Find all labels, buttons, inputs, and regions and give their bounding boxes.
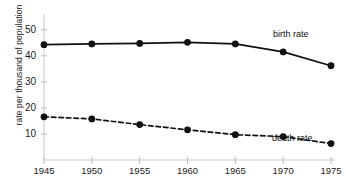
data-point-marker (280, 49, 287, 56)
series-label-birth-rate: birth rate (273, 29, 309, 39)
data-point-marker (328, 62, 335, 69)
data-point-marker (328, 140, 335, 147)
data-point-marker (184, 126, 191, 133)
data-point-marker (88, 116, 95, 123)
data-point-marker (41, 41, 48, 48)
data-point-marker (184, 39, 191, 46)
data-point-marker (232, 131, 239, 138)
data-point-marker (232, 41, 239, 48)
series-label-death-rate: death rate (272, 133, 313, 143)
data-point-marker (41, 113, 48, 120)
data-point-marker (88, 41, 95, 48)
data-point-marker (136, 40, 143, 47)
data-point-marker (136, 121, 143, 128)
series-line-birth-rate (44, 42, 331, 65)
